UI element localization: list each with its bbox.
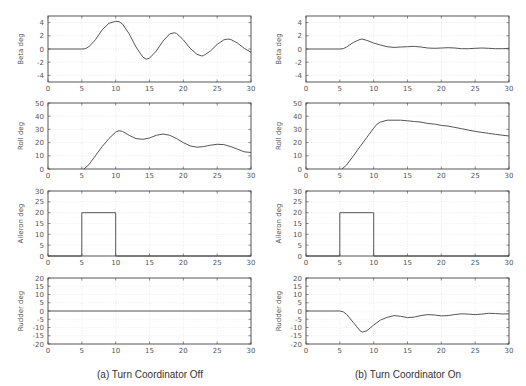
x-tick-label: 5 bbox=[338, 259, 342, 267]
y-tick-label: 10 bbox=[293, 291, 302, 299]
x-tick-label: 15 bbox=[145, 85, 154, 93]
x-tick-label: 10 bbox=[369, 259, 378, 267]
y-tick-label: 30 bbox=[293, 126, 302, 134]
y-tick-label: 30 bbox=[35, 126, 44, 134]
y-tick-label: 10 bbox=[35, 231, 44, 239]
y-tick-label: 0 bbox=[298, 46, 302, 54]
roll-plot-b: 05101520253001020304050Roll deg bbox=[275, 100, 513, 181]
y-tick-label: 20 bbox=[293, 139, 302, 147]
x-tick-label: 5 bbox=[338, 85, 342, 93]
y-axis-label: Rudder deg bbox=[275, 291, 283, 331]
x-tick-label: 10 bbox=[111, 172, 120, 180]
x-tick-label: 30 bbox=[505, 347, 514, 355]
rudder-plot-b: 051015202530-20-15-10-505101520Rudder de… bbox=[275, 275, 513, 356]
x-tick-label: 5 bbox=[80, 172, 84, 180]
beta-plot-a: 051015202530-4-2024Beta deg bbox=[17, 16, 255, 93]
y-tick-label: 2 bbox=[40, 32, 44, 40]
x-tick-label: 15 bbox=[403, 85, 412, 93]
x-tick-label: 0 bbox=[304, 347, 308, 355]
x-tick-label: 20 bbox=[179, 85, 188, 93]
x-tick-label: 25 bbox=[213, 172, 222, 180]
y-tick-label: -5 bbox=[295, 316, 302, 324]
y-tick-label: 20 bbox=[35, 275, 44, 283]
y-tick-label: 0 bbox=[40, 166, 44, 174]
data-series-line bbox=[84, 131, 251, 169]
y-tick-label: 25 bbox=[35, 198, 44, 206]
x-tick-label: 15 bbox=[403, 347, 412, 355]
y-tick-label: 20 bbox=[293, 209, 302, 217]
y-tick-label: -2 bbox=[37, 59, 44, 67]
y-tick-label: 30 bbox=[293, 188, 302, 196]
y-tick-label: 5 bbox=[40, 299, 44, 307]
x-tick-label: 5 bbox=[338, 347, 342, 355]
x-tick-label: 20 bbox=[179, 259, 188, 267]
x-tick-label: 0 bbox=[304, 85, 308, 93]
x-tick-label: 0 bbox=[46, 347, 50, 355]
y-tick-label: 5 bbox=[298, 242, 302, 250]
y-tick-label: 4 bbox=[40, 19, 45, 27]
x-tick-label: 5 bbox=[338, 172, 342, 180]
data-series-line bbox=[342, 120, 509, 169]
y-tick-label: -10 bbox=[33, 324, 44, 332]
x-tick-label: 30 bbox=[505, 172, 514, 180]
y-tick-label: -5 bbox=[37, 316, 44, 324]
x-tick-label: 25 bbox=[213, 85, 222, 93]
y-tick-label: 20 bbox=[293, 275, 302, 283]
x-tick-label: 15 bbox=[145, 259, 154, 267]
y-tick-label: 10 bbox=[35, 291, 44, 299]
aileron-plot-a: 051015202530051015202530Aileron deg bbox=[17, 188, 255, 268]
x-tick-label: 25 bbox=[471, 259, 480, 267]
y-axis-label: Aileron deg bbox=[17, 204, 25, 244]
y-axis-label: Beta deg bbox=[17, 33, 25, 65]
x-tick-label: 5 bbox=[80, 347, 84, 355]
y-tick-label: 15 bbox=[293, 283, 302, 291]
x-tick-label: 20 bbox=[179, 172, 188, 180]
x-tick-label: 25 bbox=[213, 259, 222, 267]
y-tick-label: 0 bbox=[40, 46, 44, 54]
aileron-plot-b: 051015202530051015202530Aileron deg bbox=[275, 188, 513, 268]
beta-plot-b: 051015202530-4-2024Beta deg bbox=[275, 16, 513, 93]
x-tick-label: 30 bbox=[247, 85, 256, 93]
y-tick-label: 5 bbox=[298, 299, 302, 307]
x-tick-label: 0 bbox=[304, 172, 308, 180]
y-tick-label: 0 bbox=[298, 308, 302, 316]
y-axis-label: Roll deg bbox=[17, 122, 25, 150]
figure: 051015202530-4-2024Beta deg0510152025300… bbox=[0, 0, 526, 386]
y-tick-label: 0 bbox=[298, 253, 302, 261]
y-tick-label: 25 bbox=[293, 198, 302, 206]
x-tick-label: 25 bbox=[471, 347, 480, 355]
y-tick-label: 10 bbox=[293, 231, 302, 239]
y-tick-label: 40 bbox=[293, 113, 302, 121]
chart-panels: 051015202530-4-2024Beta deg0510152025300… bbox=[17, 16, 513, 355]
caption-turn-coordinator-on: (b) Turn Coordinator On bbox=[355, 369, 461, 380]
y-tick-label: -4 bbox=[295, 72, 303, 80]
rudder-plot-a: 051015202530-20-15-10-505101520Rudder de… bbox=[17, 275, 255, 356]
x-tick-label: 30 bbox=[247, 259, 256, 267]
y-tick-label: 0 bbox=[298, 166, 302, 174]
y-tick-label: 15 bbox=[293, 220, 302, 228]
y-tick-label: -4 bbox=[37, 72, 45, 80]
y-tick-label: -15 bbox=[33, 332, 44, 340]
x-tick-label: 20 bbox=[437, 85, 446, 93]
x-tick-label: 15 bbox=[145, 347, 154, 355]
y-tick-label: 50 bbox=[293, 100, 302, 108]
x-tick-label: 10 bbox=[111, 85, 120, 93]
y-tick-label: -10 bbox=[291, 324, 302, 332]
y-tick-label: 10 bbox=[293, 152, 302, 160]
x-tick-label: 5 bbox=[80, 259, 84, 267]
x-tick-label: 15 bbox=[145, 172, 154, 180]
x-tick-label: 10 bbox=[369, 172, 378, 180]
y-tick-label: 15 bbox=[35, 220, 44, 228]
y-tick-label: -20 bbox=[33, 341, 44, 349]
x-tick-label: 25 bbox=[471, 172, 480, 180]
x-tick-label: 30 bbox=[505, 259, 514, 267]
y-tick-label: 2 bbox=[298, 32, 302, 40]
x-tick-label: 0 bbox=[304, 259, 308, 267]
x-tick-label: 0 bbox=[46, 172, 50, 180]
x-tick-label: 20 bbox=[179, 347, 188, 355]
x-tick-label: 5 bbox=[80, 85, 84, 93]
y-tick-label: -2 bbox=[295, 59, 302, 67]
x-tick-label: 15 bbox=[403, 259, 412, 267]
x-tick-label: 30 bbox=[505, 85, 514, 93]
x-tick-label: 0 bbox=[46, 85, 50, 93]
